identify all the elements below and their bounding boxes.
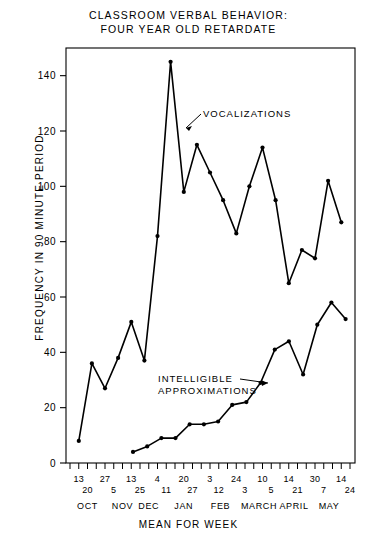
x-tick-label: 5 — [111, 485, 116, 495]
vocalizations-point — [234, 231, 238, 235]
month-label: JAN — [174, 501, 193, 511]
vocalizations-leader-line — [186, 114, 201, 128]
intelligible-approximations-point — [173, 436, 177, 440]
x-tick-label: 14 — [283, 474, 294, 484]
vocalizations-point — [274, 198, 278, 202]
x-tick-label: 24 — [345, 485, 356, 495]
vocalizations-point — [339, 220, 343, 224]
x-tick-label: 13 — [73, 474, 84, 484]
intelligible-approximations-point — [287, 339, 291, 343]
intelligible-label-line-2: APPROXIMATIONS — [158, 385, 257, 396]
intelligible-approximations-point — [159, 436, 163, 440]
x-axis-month-labels: OCTNOVDECJANFEBMARCHAPRILMAY — [77, 501, 339, 511]
y-axis-ticks — [60, 76, 66, 463]
intelligible-approximations-point — [273, 348, 277, 352]
month-label: OCT — [77, 501, 98, 511]
intelligible-approximations-point — [230, 403, 234, 407]
x-tick-label: 30 — [310, 474, 321, 484]
intelligible-approximations-point — [216, 419, 220, 423]
intelligible-approximations-point — [315, 323, 319, 327]
vocalizations-point — [90, 361, 94, 365]
vocalizations-point — [129, 320, 133, 324]
intelligible-leader-arrow — [261, 380, 268, 386]
y-tick-label: 0 — [50, 458, 56, 469]
series-annotations: VOCALIZATIONSINTELLIGIBLEAPPROXIMATIONS — [158, 108, 291, 396]
month-label: MARCH — [241, 501, 277, 511]
intelligible-approximations-point — [202, 422, 206, 426]
intelligible-approximations-point — [145, 444, 149, 448]
x-tick-label: 3 — [242, 485, 247, 495]
month-label: DEC — [138, 501, 159, 511]
vocalizations-point — [77, 439, 81, 443]
vocalizations-point — [260, 146, 264, 150]
intelligible-approximations-point — [301, 372, 305, 376]
y-tick-label: 140 — [38, 70, 56, 81]
chart-figure: CLASSROOM VERBAL BEHAVIOR: FOUR YEAR OLD… — [0, 0, 377, 547]
vocalizations-point — [182, 190, 186, 194]
x-tick-label: 5 — [269, 485, 274, 495]
intelligible-approximations-point — [188, 422, 192, 426]
month-label: MAY — [319, 501, 340, 511]
vocalizations-point — [221, 198, 225, 202]
x-tick-label: 10 — [257, 474, 268, 484]
vocalizations-point — [169, 60, 173, 64]
x-tick-label: 20 — [178, 474, 189, 484]
vocalizations-label: VOCALIZATIONS — [203, 108, 291, 119]
intelligible-label-line-1: INTELLIGIBLE — [158, 373, 233, 384]
x-tick-label: 21 — [292, 485, 303, 495]
x-tick-label: 4 — [155, 474, 160, 484]
vocalizations-point — [103, 386, 107, 390]
y-tick-label: 120 — [38, 126, 56, 137]
x-tick-label: 12 — [213, 485, 224, 495]
x-tick-label: 27 — [100, 474, 111, 484]
y-tick-label: 20 — [44, 402, 56, 413]
y-tick-label: 40 — [44, 347, 56, 358]
x-axis-ticks — [70, 463, 350, 469]
x-tick-label: 20 — [82, 485, 93, 495]
vocalizations-point — [326, 179, 330, 183]
month-label: NOV — [112, 501, 133, 511]
x-tick-label: 3 — [207, 474, 212, 484]
y-tick-label: 60 — [44, 292, 56, 303]
vocalizations-point — [300, 248, 304, 252]
month-label: FEB — [211, 501, 230, 511]
x-tick-label: 7 — [321, 485, 326, 495]
x-tick-label: 24 — [231, 474, 242, 484]
x-tick-label: 27 — [187, 485, 198, 495]
plot-svg: 020406080100120140 132713420324101430142… — [0, 0, 377, 547]
intelligible-approximations-point — [244, 400, 248, 404]
intelligible-approximations-point — [344, 317, 348, 321]
vocalizations-point — [116, 356, 120, 360]
x-tick-label: 25 — [135, 485, 146, 495]
x-tick-label: 14 — [336, 474, 347, 484]
intelligible-approximations-point — [329, 300, 333, 304]
y-tick-label: 100 — [38, 181, 56, 192]
vocalizations-point — [313, 256, 317, 260]
y-tick-label: 80 — [44, 236, 56, 247]
y-axis-tick-labels: 020406080100120140 — [38, 70, 56, 468]
intelligible-approximations-point — [131, 450, 135, 454]
vocalizations-point — [155, 234, 159, 238]
vocalizations-point — [208, 170, 212, 174]
x-tick-label: 13 — [126, 474, 137, 484]
vocalizations-point — [142, 359, 146, 363]
vocalizations-point — [287, 281, 291, 285]
x-axis-tick-labels: 13271342032410143014205251127123521724 — [73, 474, 355, 495]
month-label: APRIL — [279, 501, 308, 511]
vocalizations-point — [247, 184, 251, 188]
x-tick-label: 11 — [161, 485, 171, 495]
vocalizations-point — [195, 143, 199, 147]
